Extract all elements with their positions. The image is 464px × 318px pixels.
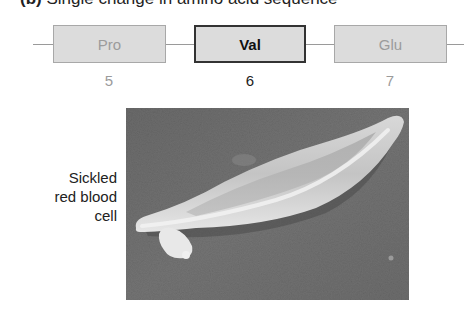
label-line: Sickled xyxy=(0,168,117,187)
label-line: cell xyxy=(0,206,117,225)
amino-acid-box-glu: Glu xyxy=(334,25,447,63)
peptide-bond-line xyxy=(306,44,334,45)
peptide-bond-line xyxy=(166,44,194,45)
amino-acid-box-val: Val xyxy=(194,25,306,63)
title-text: Single change in amino acid sequence xyxy=(46,0,337,8)
micrograph-label: Sickled red blood cell xyxy=(0,168,117,225)
figure-title: (b) Single change in amino acid sequence xyxy=(20,0,338,9)
sem-micrograph xyxy=(126,108,409,300)
residue-label: Glu xyxy=(379,36,402,53)
position-number: 5 xyxy=(89,72,129,89)
position-number: 7 xyxy=(370,72,410,89)
peptide-bond-line xyxy=(447,44,464,45)
panel-label: (b) xyxy=(20,0,42,8)
label-line: red blood xyxy=(0,187,117,206)
residue-label: Pro xyxy=(98,36,121,53)
peptide-bond-line xyxy=(33,44,53,45)
amino-acid-box-pro: Pro xyxy=(53,25,166,63)
position-number: 6 xyxy=(230,72,270,89)
sickle-cell-image xyxy=(126,108,409,300)
residue-label: Val xyxy=(239,36,261,53)
